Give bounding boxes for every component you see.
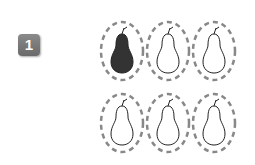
pear-icon xyxy=(190,18,238,82)
pear-item xyxy=(98,18,146,82)
pear-icon xyxy=(190,90,238,154)
question-number: 1 xyxy=(25,36,33,53)
pear-icon xyxy=(144,90,192,154)
pear-icon xyxy=(98,90,146,154)
question-number-badge: 1 xyxy=(18,34,40,56)
pear-item xyxy=(144,90,192,154)
pear-item xyxy=(98,90,146,154)
pear-grid xyxy=(98,18,248,158)
pear-item xyxy=(190,90,238,154)
pear-icon xyxy=(98,18,146,82)
pear-item xyxy=(144,18,192,82)
pear-item xyxy=(190,18,238,82)
pear-icon xyxy=(144,18,192,82)
